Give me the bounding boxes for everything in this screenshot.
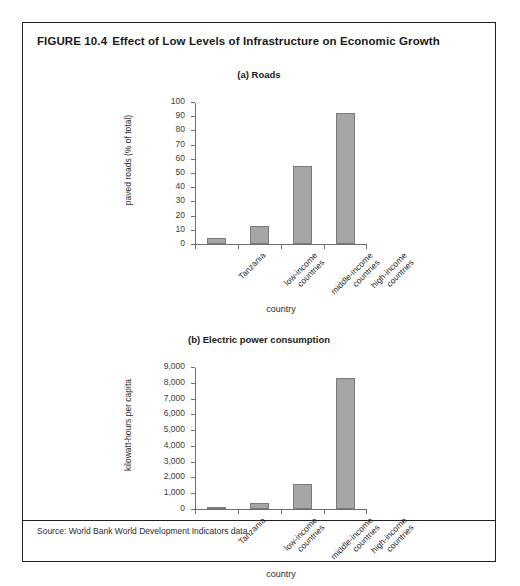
- y-axis-tick: 30: [191, 201, 195, 202]
- y-axis-tick: 50: [191, 173, 195, 174]
- x-axis-category-label: Tanzania: [237, 251, 268, 282]
- x-axis-tick: [324, 510, 325, 514]
- x-axis-tick: [195, 245, 196, 249]
- x-axis-tick: [324, 245, 325, 249]
- panel-b-title: (b) Electric power consumption: [23, 334, 495, 345]
- y-axis-tick: 7,000: [191, 399, 195, 400]
- y-axis-tick: 40: [191, 187, 195, 188]
- panel-a-y-axis-line: [195, 103, 196, 245]
- panel-a-plot-area: 0102030405060708090100: [195, 103, 367, 245]
- y-axis-tick: 80: [191, 130, 195, 131]
- y-axis-tick: 70: [191, 145, 195, 146]
- y-axis-tick-label: 6,000: [164, 408, 185, 418]
- x-axis-category-label: high-incomecountries: [369, 251, 416, 298]
- figure-title: FIGURE 10.4Effect of Low Levels of Infra…: [37, 35, 440, 47]
- y-axis-tick-label: 90: [176, 110, 185, 120]
- y-axis-tick-label: 50: [176, 167, 185, 177]
- source-note: Source: World Bank World Development Ind…: [37, 526, 250, 536]
- x-axis-category-label: low-incomecountries: [282, 516, 326, 560]
- bar-a-2: [293, 166, 313, 244]
- panel-b-y-axis-line: [195, 368, 196, 510]
- panel-a-title: (a) Roads: [23, 69, 495, 80]
- y-axis-tick: 4,000: [191, 446, 195, 447]
- x-axis-tick: [195, 510, 196, 514]
- x-axis-category-label: low-incomecountries: [282, 251, 326, 295]
- x-axis-category-label: high-incomecountries: [369, 516, 416, 563]
- bar-a-1: [250, 226, 270, 244]
- y-axis-tick: 1,000: [191, 493, 195, 494]
- y-axis-tick-label: 70: [176, 139, 185, 149]
- panel-b-plot-area: 01,0002,0003,0004,0005,0006,0007,0008,00…: [195, 368, 367, 510]
- y-axis-tick: 8,000: [191, 383, 195, 384]
- y-axis-tick: 9,000: [191, 367, 195, 368]
- y-axis-tick: 5,000: [191, 430, 195, 431]
- panel-b-y-axis-label: kilowatt-hours per capita: [121, 354, 135, 496]
- x-axis-tick: [238, 245, 239, 249]
- y-axis-tick-label: 60: [176, 153, 185, 163]
- y-axis-tick: 3,000: [191, 462, 195, 463]
- y-axis-tick: 10: [191, 230, 195, 231]
- y-axis-tick-label: 4,000: [164, 440, 185, 450]
- y-axis-tick: 100: [191, 102, 195, 103]
- x-axis-tick: [281, 245, 282, 249]
- y-axis-tick-label: 40: [176, 181, 185, 191]
- bar-b-2: [293, 484, 313, 509]
- x-axis-tick: [238, 510, 239, 514]
- y-axis-tick: 6,000: [191, 414, 195, 415]
- x-axis-tick: [366, 245, 367, 249]
- chart-panel-a: paved roads (% of total) 010203040506070…: [123, 89, 383, 329]
- bar-a-0: [207, 238, 227, 244]
- y-axis-tick: 20: [191, 216, 195, 217]
- y-axis-tick: 90: [191, 116, 195, 117]
- figure-number: FIGURE 10.4: [37, 35, 107, 47]
- figure-title-text: Effect of Low Levels of Infrastructure o…: [112, 35, 440, 47]
- bar-b-0: [207, 507, 227, 509]
- x-axis-tick: [366, 510, 367, 514]
- panel-a-y-axis-label: paved roads (% of total): [121, 89, 135, 231]
- figure-frame: FIGURE 10.4Effect of Low Levels of Infra…: [22, 22, 496, 562]
- y-axis-tick-label: 100: [171, 96, 185, 106]
- y-axis-tick-label: 0: [180, 503, 185, 513]
- y-axis-tick-label: 80: [176, 124, 185, 134]
- y-axis-tick-label: 7,000: [164, 393, 185, 403]
- y-axis-tick-label: 3,000: [164, 456, 185, 466]
- bar-b-3: [336, 378, 356, 509]
- panel-a-x-axis-label: country: [195, 304, 367, 314]
- y-axis-tick-label: 5,000: [164, 424, 185, 434]
- y-axis-tick-label: 30: [176, 195, 185, 205]
- y-axis-tick-label: 9,000: [164, 361, 185, 371]
- chart-panel-b: kilowatt-hours per capita 01,0002,0003,0…: [123, 354, 383, 586]
- bar-a-3: [336, 113, 356, 244]
- bar-b-1: [250, 503, 270, 509]
- source-divider: [23, 520, 495, 521]
- y-axis-tick: 60: [191, 159, 195, 160]
- y-axis-tick-label: 10: [176, 224, 185, 234]
- panel-b-x-axis-label: country: [195, 569, 367, 579]
- y-axis-tick-label: 8,000: [164, 377, 185, 387]
- y-axis-tick-label: 2,000: [164, 471, 185, 481]
- x-axis-tick: [281, 510, 282, 514]
- y-axis-tick-label: 1,000: [164, 487, 185, 497]
- y-axis-tick-label: 20: [176, 210, 185, 220]
- y-axis-tick-label: 0: [180, 238, 185, 248]
- y-axis-tick: 2,000: [191, 477, 195, 478]
